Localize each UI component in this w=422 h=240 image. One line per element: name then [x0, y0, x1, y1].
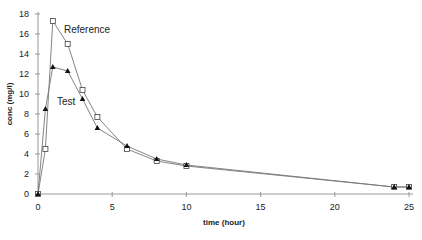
annotation-reference: Reference: [64, 24, 111, 35]
x-tick-label: 15: [256, 202, 266, 212]
test-marker: [80, 96, 86, 101]
axes: 0510152025024681012141618: [19, 9, 414, 212]
x-tick-label: 5: [110, 202, 115, 212]
test-marker: [50, 64, 56, 69]
test-marker: [124, 143, 130, 148]
y-tick-label: 6: [24, 129, 29, 139]
y-tick-label: 8: [24, 109, 29, 119]
y-axis-label: conc (mg/l): [5, 82, 14, 125]
reference-marker: [50, 19, 55, 24]
pk-concentration-chart: 0510152025024681012141618 conc (mg/l) ti…: [0, 0, 422, 240]
series-line-test: [38, 67, 409, 194]
y-tick-label: 18: [19, 9, 29, 19]
y-tick-label: 2: [24, 169, 29, 179]
x-axis-label: time (hour): [203, 218, 245, 227]
reference-marker: [95, 115, 100, 120]
reference-marker: [43, 147, 48, 152]
series-line-reference: [38, 21, 409, 194]
x-tick-label: 20: [330, 202, 340, 212]
reference-marker: [65, 42, 70, 47]
x-tick-label: 10: [181, 202, 191, 212]
series-layer: [35, 19, 412, 197]
y-tick-label: 10: [19, 89, 29, 99]
x-tick-label: 0: [35, 202, 40, 212]
reference-marker: [80, 88, 85, 93]
y-tick-label: 4: [24, 149, 29, 159]
y-tick-label: 12: [19, 69, 29, 79]
y-tick-label: 14: [19, 49, 29, 59]
y-tick-label: 16: [19, 29, 29, 39]
annotation-test: Test: [57, 96, 76, 107]
test-marker: [95, 125, 101, 130]
x-tick-label: 25: [404, 202, 414, 212]
y-tick-label: 0: [24, 189, 29, 199]
